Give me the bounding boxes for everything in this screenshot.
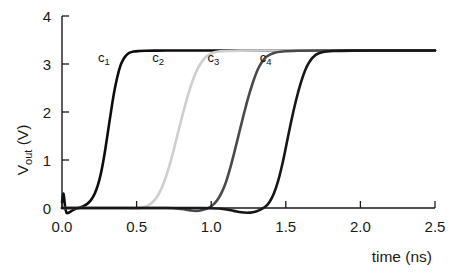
y-axis-title-base: V bbox=[14, 164, 31, 175]
curve-label-subscript: 4 bbox=[266, 56, 271, 67]
y-axis-title: Vout (V) bbox=[14, 125, 34, 176]
chart-figure: 012340.00.51.01.52.02.5 c1c2c3c4 Vout (V… bbox=[0, 0, 461, 274]
x-axis-tick-label: 1.0 bbox=[201, 218, 222, 235]
curve-label-subscript: 2 bbox=[159, 56, 164, 67]
axis-spines bbox=[62, 16, 435, 208]
curve-label-c1: c1 bbox=[98, 50, 110, 68]
x-axis-title-text: time (ns) bbox=[372, 248, 432, 265]
x-axis-tick-label: 0.5 bbox=[126, 218, 147, 235]
axes-group bbox=[62, 16, 435, 208]
curve-label-c4: c4 bbox=[260, 50, 272, 68]
y-axis-title-subscript: out bbox=[22, 150, 34, 165]
line-chart-plot: 012340.00.51.01.52.02.5 c1c2c3c4 Vout (V… bbox=[0, 0, 461, 274]
y-axis-tick-label: 2 bbox=[43, 104, 51, 121]
curve-label-subscript: 1 bbox=[104, 56, 109, 67]
series-line-c1 bbox=[62, 51, 435, 214]
x-axis-tick-label: 1.5 bbox=[275, 218, 296, 235]
curve-label-subscript: 3 bbox=[214, 56, 219, 67]
y-axis-title-unit: (V) bbox=[14, 125, 31, 150]
y-axis-tick-label: 4 bbox=[43, 8, 51, 25]
y-axis-tick-label: 3 bbox=[43, 56, 51, 73]
y-axis-tick-label: 1 bbox=[43, 152, 51, 169]
curve-label-c2: c2 bbox=[152, 50, 164, 68]
svg-text:Vout (V): Vout (V) bbox=[14, 125, 34, 176]
x-axis-tick-label: 2.0 bbox=[350, 218, 371, 235]
x-axis-tick-label: 0.0 bbox=[52, 218, 73, 235]
x-axis-tick-label: 2.5 bbox=[425, 218, 446, 235]
series-group bbox=[62, 51, 435, 214]
y-axis-tick-label: 0 bbox=[43, 200, 51, 217]
tick-label-group: 012340.00.51.01.52.02.5 bbox=[43, 8, 446, 236]
x-axis-title: time (ns) bbox=[372, 248, 432, 265]
